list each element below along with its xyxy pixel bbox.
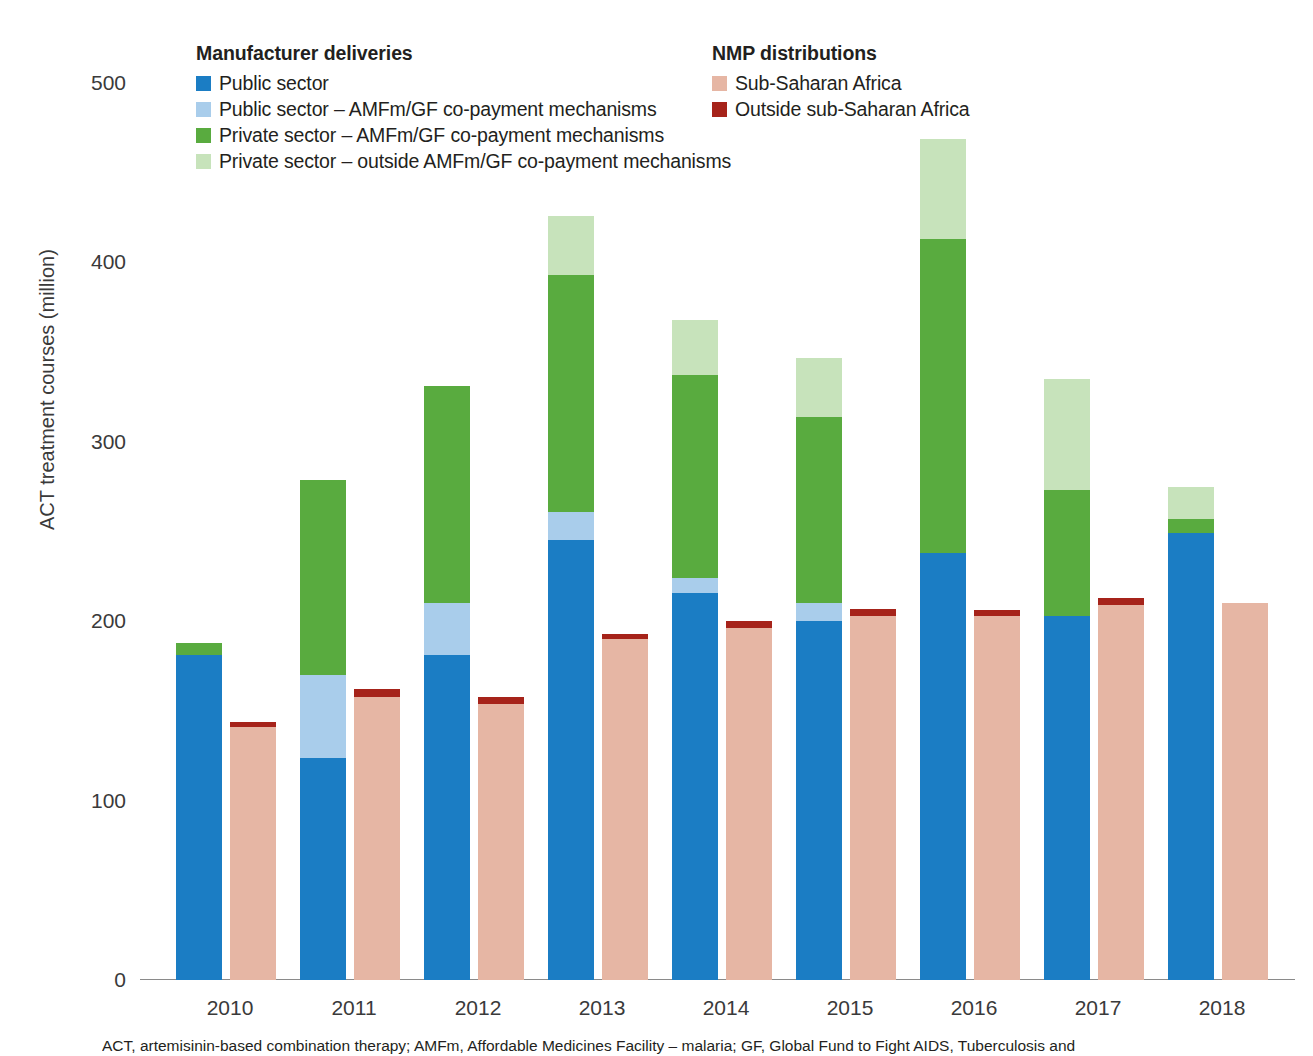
bar-segment <box>300 480 346 676</box>
bar-segment <box>672 375 718 578</box>
bar-group-2011: 2011 <box>292 83 416 980</box>
bar-segment <box>602 639 648 980</box>
bar-segment <box>230 727 276 980</box>
x-axis-tick-2013: 2013 <box>540 996 664 1020</box>
x-axis-tick-2010: 2010 <box>168 996 292 1020</box>
chart-footnote: ACT, artemisinin-based combination thera… <box>102 1036 1282 1056</box>
bar-segment <box>1098 598 1144 605</box>
bar-segment <box>424 386 470 603</box>
plot-area: 0100200300400500201020112012201320142015… <box>140 83 1295 980</box>
bar-segment <box>796 621 842 980</box>
bar-2013-nmp-distributions[interactable] <box>602 634 648 980</box>
bar-segment <box>548 512 594 541</box>
bar-segment <box>300 758 346 980</box>
bar-2013-manufacturer-deliveries[interactable] <box>548 216 594 980</box>
bar-segment <box>1222 603 1268 980</box>
bar-segment <box>1168 519 1214 533</box>
bar-2017-manufacturer-deliveries[interactable] <box>1044 379 1090 980</box>
y-axis-tick-200: 200 <box>91 609 126 633</box>
x-axis-tick-2018: 2018 <box>1160 996 1284 1020</box>
chart-figure: Manufacturer deliveries Public sector Pu… <box>0 0 1313 1056</box>
bar-2015-nmp-distributions[interactable] <box>850 609 896 980</box>
bar-segment <box>1168 533 1214 980</box>
x-axis-tick-2011: 2011 <box>292 996 416 1020</box>
bar-2017-nmp-distributions[interactable] <box>1098 598 1144 980</box>
x-axis-tick-2015: 2015 <box>788 996 912 1020</box>
bar-segment <box>176 655 222 980</box>
bar-group-2013: 2013 <box>540 83 664 980</box>
legend-title-manufacturer: Manufacturer deliveries <box>196 40 731 66</box>
bar-group-2015: 2015 <box>788 83 912 980</box>
bar-segment <box>726 628 772 980</box>
bar-2015-manufacturer-deliveries[interactable] <box>796 358 842 980</box>
bar-segment <box>1044 379 1090 490</box>
bar-segment <box>920 239 966 553</box>
bar-segment <box>672 578 718 592</box>
bar-segment <box>478 704 524 980</box>
bar-segment <box>1044 490 1090 616</box>
bar-2011-nmp-distributions[interactable] <box>354 689 400 980</box>
bar-segment <box>850 609 896 616</box>
bar-segment <box>300 675 346 758</box>
bar-segment <box>726 621 772 628</box>
bar-2010-nmp-distributions[interactable] <box>230 722 276 980</box>
bar-2018-manufacturer-deliveries[interactable] <box>1168 487 1214 980</box>
bar-segment <box>920 553 966 980</box>
legend-title-nmp: NMP distributions <box>712 40 970 66</box>
bar-group-2010: 2010 <box>168 83 292 980</box>
bar-2014-nmp-distributions[interactable] <box>726 621 772 980</box>
bar-segment <box>796 603 842 621</box>
bar-2018-nmp-distributions[interactable] <box>1222 603 1268 980</box>
bar-segment <box>478 697 524 704</box>
y-axis-tick-400: 400 <box>91 250 126 274</box>
bar-2010-manufacturer-deliveries[interactable] <box>176 643 222 980</box>
bar-segment <box>424 603 470 655</box>
bar-segment <box>672 593 718 981</box>
bar-segment <box>672 320 718 376</box>
y-axis-tick-0: 0 <box>114 968 126 992</box>
bar-segment <box>176 643 222 656</box>
x-axis-tick-2014: 2014 <box>664 996 788 1020</box>
y-axis-tick-100: 100 <box>91 789 126 813</box>
x-axis-tick-2016: 2016 <box>912 996 1036 1020</box>
bar-segment <box>1168 487 1214 519</box>
bar-segment <box>796 417 842 604</box>
bar-segment <box>354 689 400 696</box>
bar-segment <box>424 655 470 980</box>
bar-group-2018: 2018 <box>1160 83 1284 980</box>
bar-segment <box>920 139 966 239</box>
bar-2016-manufacturer-deliveries[interactable] <box>920 139 966 980</box>
bar-2011-manufacturer-deliveries[interactable] <box>300 480 346 981</box>
bar-2014-manufacturer-deliveries[interactable] <box>672 320 718 980</box>
y-axis-tick-500: 500 <box>91 71 126 95</box>
bar-group-2017: 2017 <box>1036 83 1160 980</box>
bar-group-2014: 2014 <box>664 83 788 980</box>
bar-2016-nmp-distributions[interactable] <box>974 610 1020 980</box>
bar-2012-manufacturer-deliveries[interactable] <box>424 386 470 980</box>
bar-segment <box>796 358 842 417</box>
y-axis-tick-300: 300 <box>91 430 126 454</box>
bar-segment <box>354 697 400 980</box>
bar-segment <box>548 275 594 512</box>
x-axis-tick-2012: 2012 <box>416 996 540 1020</box>
bar-group-2016: 2016 <box>912 83 1036 980</box>
bar-segment <box>850 616 896 980</box>
bar-2012-nmp-distributions[interactable] <box>478 697 524 980</box>
bar-group-2012: 2012 <box>416 83 540 980</box>
bar-segment <box>548 540 594 980</box>
x-axis-tick-2017: 2017 <box>1036 996 1160 1020</box>
bar-segment <box>974 616 1020 980</box>
y-axis-title: ACT treatment courses (million) <box>36 249 59 530</box>
bar-segment <box>1044 616 1090 980</box>
bar-segment <box>548 216 594 275</box>
bar-segment <box>1098 605 1144 980</box>
